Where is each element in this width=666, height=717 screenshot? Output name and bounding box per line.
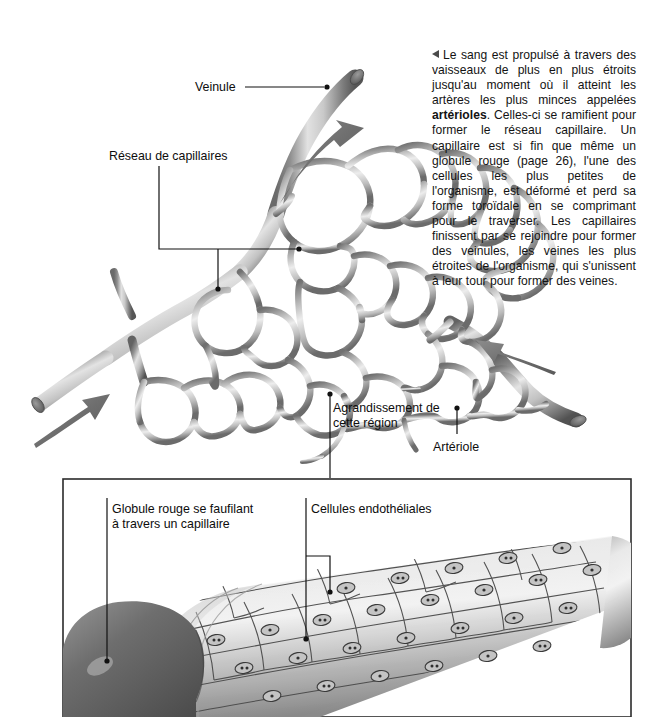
label-veinule: Veinule [195,80,236,95]
endothelial-nuclei [206,541,601,702]
arteriole-inflow-arrow [476,340,556,375]
capillary-cutaway-band [150,584,262,717]
label-globule-rouge: Globule rouge se faufilant à travers un … [112,502,253,531]
leader-dot-veinule [324,84,329,89]
label-cellules-endotheliales: Cellules endothéliales [311,502,432,517]
leader-dot-globule [104,658,109,663]
paragraph-text: Le sang est propulsé à travers des vaiss… [432,48,636,288]
venule-vessel [240,67,366,272]
venule-open-end [348,67,367,87]
red-blood-cell [62,601,204,717]
rbc-specular-highlight [84,652,116,679]
leader-dots-bottom [104,589,332,663]
artery-flow-arrow [34,394,110,448]
nuclei-dots [213,546,594,697]
label-reseau-de-capillaires: Réseau de capillaires [109,149,227,164]
capillary-tube [150,536,653,717]
leader-dot-reseau-2 [215,286,220,291]
leader-dot-arteriole [454,405,459,410]
label-agrandissement-region: Agrandissement de cette région [333,401,440,430]
arteriole-open-end [568,413,587,428]
body-paragraph: Le sang est propulsé à travers des vaiss… [432,48,636,290]
label-arteriole: Artériole [433,440,479,455]
leader-dot-cellules-1 [303,636,308,641]
venule-outflow-arrow [280,120,364,203]
leader-cellules-right [306,556,330,590]
arteriole-vessel [29,272,240,415]
leader-dots-top [215,84,459,410]
artery-open-end [29,395,47,415]
page-root: Le sang est propulsé à travers des vaiss… [0,0,666,717]
leader-dot-cellules-2 [327,589,332,594]
arteriole-inflow-vessel [450,322,588,429]
leader-dot-reseau-1 [296,246,301,251]
left-triangle-icon [432,50,439,58]
endothelial-cell-layer [150,540,616,716]
leader-dot-agrandissement [327,391,332,396]
leader-reseau-1 [159,166,299,249]
